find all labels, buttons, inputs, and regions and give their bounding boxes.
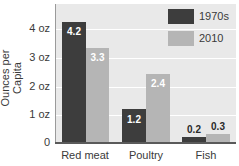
x-label-fish: Fish: [176, 149, 236, 161]
y-tick-3: 3 oz: [4, 51, 50, 63]
y-axis-line: [55, 4, 56, 143]
bar-redmeat-1970s: 4.2: [62, 22, 86, 143]
bar-value: 0.2: [182, 124, 206, 135]
bar-redmeat-2010: 3.3: [86, 48, 109, 143]
legend-label-2010: 2010: [199, 32, 223, 44]
x-label-poultry: Poultry: [116, 149, 176, 161]
x-axis-line: [55, 142, 236, 144]
x-label-redmeat: Red meat: [55, 149, 115, 161]
bar-value: 1.2: [122, 114, 146, 125]
bar-poultry-1970s: 1.2: [122, 109, 146, 143]
y-tick-4: 4 oz: [4, 22, 50, 34]
bar-value: 3.3: [86, 52, 109, 63]
bar-value: 2.4: [146, 78, 170, 89]
bar-value: 0.3: [206, 121, 230, 132]
y-tick-1: 1 oz: [4, 108, 50, 120]
bar-poultry-2010: 2.4: [146, 74, 170, 143]
legend-swatch-2010: [168, 31, 194, 46]
y-tick-2: 2 oz: [4, 80, 50, 92]
bar-value: 4.2: [62, 26, 86, 37]
legend-swatch-1970s: [168, 9, 194, 24]
y-tick-0: 0: [4, 136, 50, 148]
legend-label-1970s: 1970s: [199, 10, 229, 22]
